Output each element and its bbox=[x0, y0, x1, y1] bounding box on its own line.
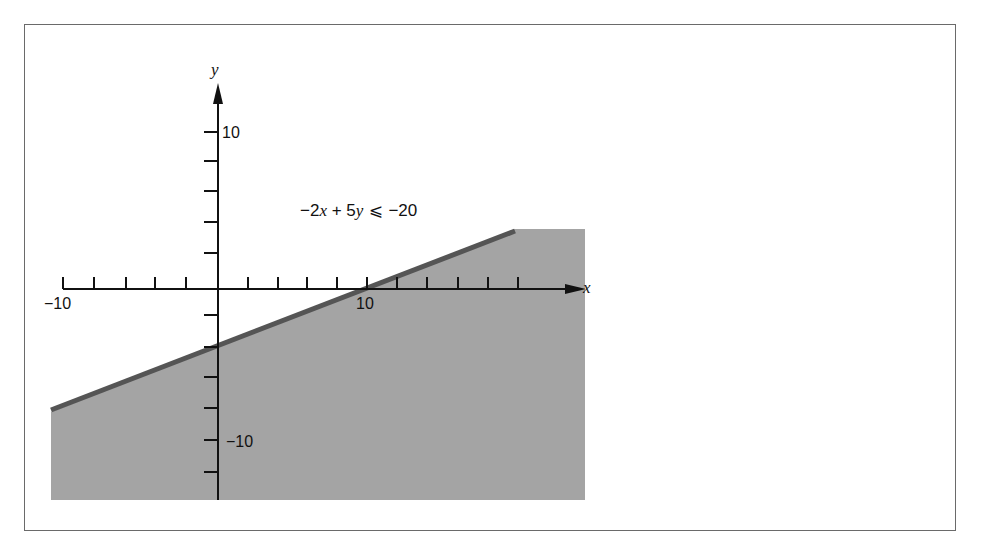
y-axis-label: y bbox=[209, 60, 219, 79]
inequality-annotation: −2x + 5y ⩽ −20 bbox=[300, 200, 417, 220]
y-axis bbox=[204, 95, 218, 500]
x-axis-label: x bbox=[582, 278, 591, 297]
y-tick-label-neg10: −10 bbox=[226, 433, 253, 450]
shaded-region bbox=[51, 229, 585, 500]
x-tick-label-10: 10 bbox=[356, 295, 374, 312]
y-tick-label-10: 10 bbox=[222, 124, 240, 141]
y-axis-arrow-icon bbox=[213, 83, 223, 104]
x-tick-label-neg10: −10 bbox=[44, 295, 71, 312]
plot-area: y x −10 10 10 −10 −2x + 5y ⩽ −20 bbox=[0, 0, 982, 547]
